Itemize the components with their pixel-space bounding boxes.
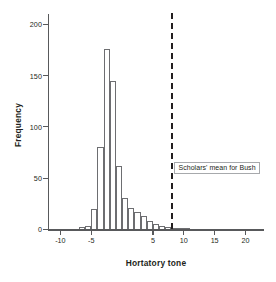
histogram-bar — [184, 228, 190, 229]
y-axis-title: Frequency — [13, 85, 23, 165]
x-axis-title: Hortatory tone — [48, 258, 264, 268]
histogram-bars — [0, 0, 276, 282]
scholars-mean-annotation-label: Scholars' mean for Bush — [174, 162, 259, 174]
scholars-mean-reference-line — [171, 13, 173, 229]
histogram-figure: 050100150200 -10-55101520 Scholars' mean… — [0, 0, 276, 282]
